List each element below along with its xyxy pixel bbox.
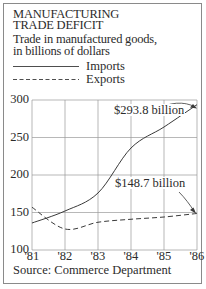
series-lines bbox=[32, 105, 197, 230]
x-tick-label: '81 bbox=[20, 250, 44, 262]
series-line-exports bbox=[32, 207, 197, 229]
gridlines bbox=[32, 100, 197, 250]
x-tick-label: '83 bbox=[86, 250, 110, 262]
x-tick-label: '86 bbox=[185, 250, 206, 262]
y-tick-label: 200 bbox=[3, 168, 29, 180]
annotation-exports: $148.7 billion bbox=[114, 177, 186, 189]
y-tick-label: 150 bbox=[3, 206, 29, 218]
x-tick-label: '85 bbox=[152, 250, 176, 262]
annotation-imports: $293.8 billion bbox=[113, 104, 185, 116]
annotation-arrow-exports bbox=[179, 192, 194, 211]
x-tick-label: '84 bbox=[119, 250, 143, 262]
x-tick-label: '82 bbox=[53, 250, 77, 262]
y-tick-label: 250 bbox=[3, 131, 29, 143]
y-tick-label: 300 bbox=[3, 93, 29, 105]
series-line-imports bbox=[32, 105, 197, 223]
source-note: Source: Commerce Department bbox=[13, 264, 171, 276]
chart-plot bbox=[0, 0, 206, 289]
